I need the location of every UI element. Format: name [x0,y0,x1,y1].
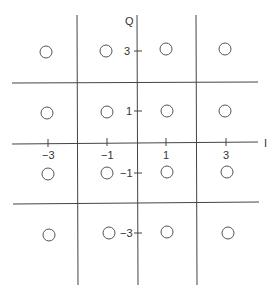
point-circle-icon [41,107,53,119]
i-tick-label-neg3: −3 [42,149,55,161]
point-circle-icon [160,43,172,55]
i-tick-label-pos1: 1 [163,149,169,161]
point-circle-icon [161,105,173,117]
q-axis-label: Q [125,15,134,27]
i-tick-label-pos3: 3 [223,149,229,161]
q-tick-label-pos3: 3 [124,45,130,57]
q-tick-label-neg1: −1 [120,167,133,179]
point-circle-icon [42,168,54,180]
point-circle-icon [101,106,113,118]
q-tick-label-neg3: −3 [120,227,133,239]
point-circle-icon [219,105,231,117]
point-circle-icon [100,45,112,57]
i-tick-label-neg1: −1 [101,149,114,161]
boundary-line-q-pos2 [12,82,258,83]
point-circle-icon [40,46,52,58]
point-circle-icon [161,166,173,178]
point-circle-icon [43,229,55,241]
point-circle-icon [101,167,113,179]
boundary-line-q-neg2 [13,202,259,204]
point-circle-icon [222,227,234,239]
point-circle-icon [221,166,233,178]
constellation-diagram: Q I −3 −1 1 3 3 1 −1 −3 [0,0,277,301]
q-axis [137,15,138,285]
boundary-line-i-pos2 [196,15,197,285]
boundary-line-i-neg2 [77,15,78,285]
point-circle-icon [161,226,173,238]
point-circle-icon [103,227,115,239]
i-axis [12,142,258,144]
q-tick-label-pos1: 1 [126,105,132,117]
i-axis-label: I [264,137,267,149]
point-circle-icon [219,43,231,55]
